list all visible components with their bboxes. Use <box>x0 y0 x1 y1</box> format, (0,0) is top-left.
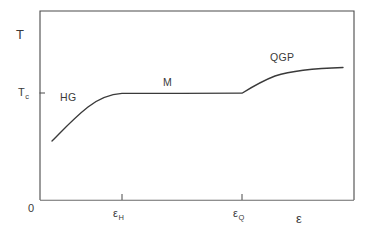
x-tick-label-epsilon-h-subscript: H <box>119 213 125 222</box>
plot-canvas <box>0 0 372 236</box>
temperature-curve <box>52 68 343 142</box>
origin-label: 0 <box>28 203 34 214</box>
frame-border <box>40 11 354 200</box>
x-tick-label-epsilon-q-base: ε <box>233 207 238 219</box>
x-axis-title: ε <box>296 212 302 225</box>
tick-marks <box>40 93 243 200</box>
x-tick-label-epsilon-h-base: ε <box>113 207 118 219</box>
region-label-quark-gluon-plasma: QGP <box>270 52 294 63</box>
x-tick-label-epsilon-q-subscript: Q <box>239 213 245 222</box>
y-tick-label-tc: Tc <box>18 87 29 98</box>
plot-frame <box>40 11 354 200</box>
region-label-mixed-phase: M <box>163 77 172 88</box>
x-tick-label-epsilon-h: εH <box>113 208 124 219</box>
y-axis-title: T <box>16 28 24 41</box>
x-tick-label-epsilon-q: εQ <box>233 208 244 219</box>
curve-path <box>52 68 343 142</box>
y-tick-label-tc-subscript: c <box>25 92 29 101</box>
region-label-hadron-gas: HG <box>60 92 76 103</box>
phase-diagram-figure: T ε 0 Tc εH εQ HG M QGP <box>0 0 372 236</box>
y-tick-label-tc-base: T <box>18 86 25 98</box>
